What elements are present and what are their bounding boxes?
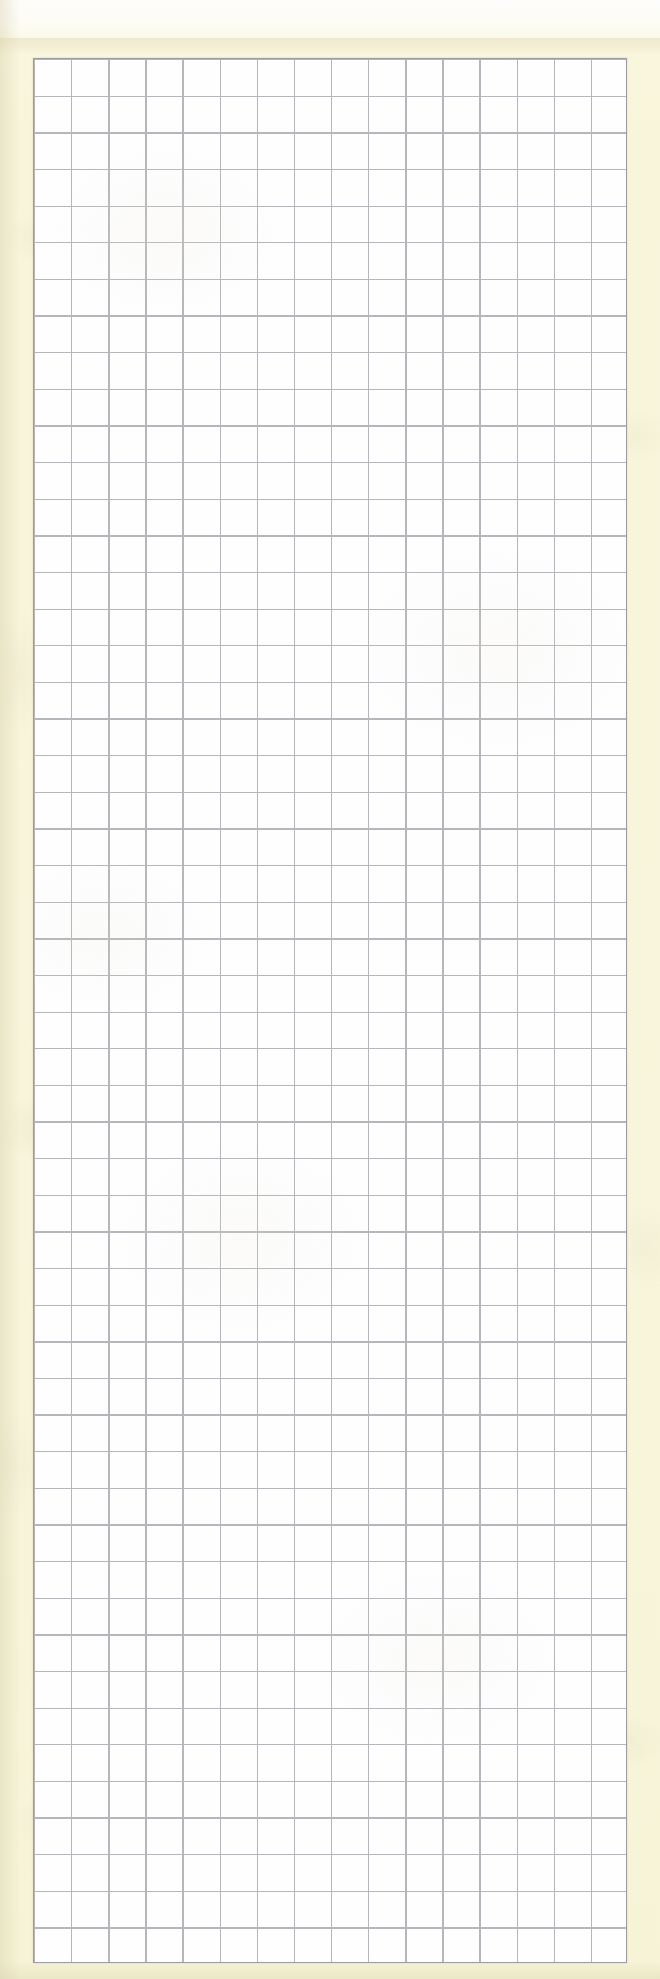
scanned-page xyxy=(0,0,660,1979)
graph-paper-grid xyxy=(33,58,627,1963)
grid-rulings xyxy=(34,59,626,1962)
